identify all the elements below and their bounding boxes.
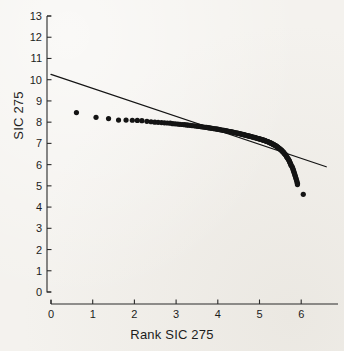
scatter-point — [116, 117, 121, 122]
y-tick-label: 0 — [18, 287, 42, 298]
plot-canvas — [0, 0, 344, 351]
y-tick-label: 13 — [18, 11, 42, 22]
x-tick-label: 2 — [131, 309, 137, 320]
y-tick-label: 11 — [18, 53, 42, 64]
y-tick-label: 12 — [18, 32, 42, 43]
x-tick-label: 0 — [48, 309, 54, 320]
scatter-point — [139, 118, 144, 123]
scatter-points — [74, 110, 306, 197]
rank-size-plot-figure: 012345678910111213 0123456 SIC 275 Rank … — [0, 0, 344, 351]
y-axis-title: SIC 275 — [11, 66, 26, 166]
y-tick-label: 5 — [18, 180, 42, 191]
scatter-point — [123, 117, 128, 122]
x-tick-marks — [51, 300, 301, 305]
scatter-point — [301, 192, 306, 197]
y-tick-label: 3 — [18, 223, 42, 234]
x-axis-title: Rank SIC 275 — [0, 327, 344, 342]
x-axis-line — [51, 300, 338, 304]
scatter-point — [74, 110, 79, 115]
y-tick-label: 4 — [18, 202, 42, 213]
y-tick-label: 1 — [18, 265, 42, 276]
x-tick-label: 3 — [173, 309, 179, 320]
scatter-point — [93, 115, 98, 120]
data-layer — [51, 74, 326, 197]
y-tick-marks — [47, 16, 52, 292]
scatter-point — [295, 182, 300, 187]
x-tick-label: 5 — [256, 309, 262, 320]
x-tick-label: 6 — [298, 309, 304, 320]
x-tick-label: 1 — [90, 309, 96, 320]
x-tick-label: 4 — [215, 309, 221, 320]
scatter-point — [130, 118, 135, 123]
scatter-point — [135, 118, 140, 123]
y-tick-label: 2 — [18, 244, 42, 255]
axes-group — [47, 16, 338, 304]
scatter-point — [106, 116, 111, 121]
y-axis-line — [47, 16, 51, 292]
